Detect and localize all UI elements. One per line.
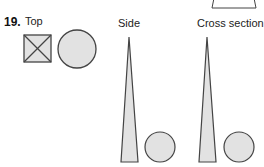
top-view-circle (58, 30, 96, 68)
cross-section-circle (224, 132, 254, 162)
top-view-square-pyramid (24, 35, 51, 62)
cross-section-triangle (199, 37, 216, 162)
figure-canvas (0, 0, 264, 167)
side-view-triangle (121, 37, 138, 162)
side-view-circle (145, 132, 175, 162)
prev-figure-trapezoid (212, 0, 256, 8)
